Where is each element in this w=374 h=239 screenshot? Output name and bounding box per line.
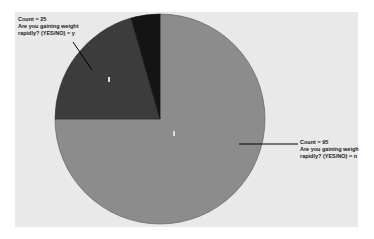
question-label: Are you gaining weight: [18, 23, 79, 30]
answer-label: rapidly? (YES/NO) = y: [18, 30, 79, 37]
question-label: Are you gaining weigh: [300, 146, 359, 153]
marker-y: [108, 77, 110, 82]
data-label-y: Count = 25 Are you gaining weight rapidl…: [18, 16, 79, 37]
data-label-n: Count = 95 Are you gaining weigh rapidly…: [300, 139, 359, 160]
count-label: Count = 95: [300, 139, 359, 146]
marker-n: [173, 131, 175, 136]
count-label: Count = 25: [18, 16, 79, 23]
answer-label: rapidly? (YES/NO) = n: [300, 153, 359, 160]
